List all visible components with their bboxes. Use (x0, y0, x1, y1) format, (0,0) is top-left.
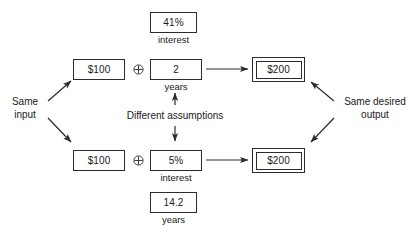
node-bottom-result: $200 (252, 148, 305, 173)
node-bottom-rate: 5% (150, 150, 202, 171)
arrow-input-to-bottom (48, 118, 71, 142)
node-top-rate-value: 41% (163, 18, 183, 28)
label-same-input-line2: input (0, 109, 50, 122)
node-top-result: $200 (252, 57, 305, 82)
arrow-output-to-bottom (311, 118, 334, 142)
circled-plus-icon-bottom (133, 155, 144, 166)
node-bottom-result-value: $200 (267, 156, 290, 166)
label-same-desired-output-line2: output (338, 109, 412, 122)
node-bottom-result-inner: $200 (256, 152, 302, 170)
label-same-input: Same input (0, 96, 50, 121)
label-different-assumptions: Different assumptions (110, 110, 240, 122)
circled-plus-icon-top (133, 64, 144, 75)
arrow-output-to-top (311, 82, 334, 101)
node-bottom-term: 14.2 (150, 192, 197, 213)
caption-top-term: years (150, 82, 202, 93)
arrow-input-to-top (48, 81, 71, 101)
node-top-term: 2 (150, 59, 202, 80)
node-top-term-value: 2 (173, 65, 179, 75)
node-bottom-rate-value: 5% (169, 156, 184, 166)
caption-bottom-rate: interest (150, 173, 202, 184)
caption-bottom-term: years (150, 215, 197, 226)
node-top-principal: $100 (73, 59, 125, 80)
node-bottom-principal-value: $100 (88, 156, 111, 166)
node-top-result-value: $200 (267, 65, 290, 75)
diagram-canvas: 41% interest $100 2 years $200 $100 5% i… (0, 0, 412, 233)
node-bottom-principal: $100 (73, 150, 125, 171)
label-same-desired-output-line1: Same desired (338, 96, 412, 109)
node-top-result-inner: $200 (256, 61, 302, 79)
caption-top-rate: interest (150, 35, 197, 46)
node-top-principal-value: $100 (88, 65, 111, 75)
node-top-rate: 41% (150, 12, 197, 33)
node-bottom-term-value: 14.2 (164, 198, 184, 208)
label-same-desired-output: Same desired output (338, 96, 412, 121)
label-same-input-line1: Same (0, 96, 50, 109)
